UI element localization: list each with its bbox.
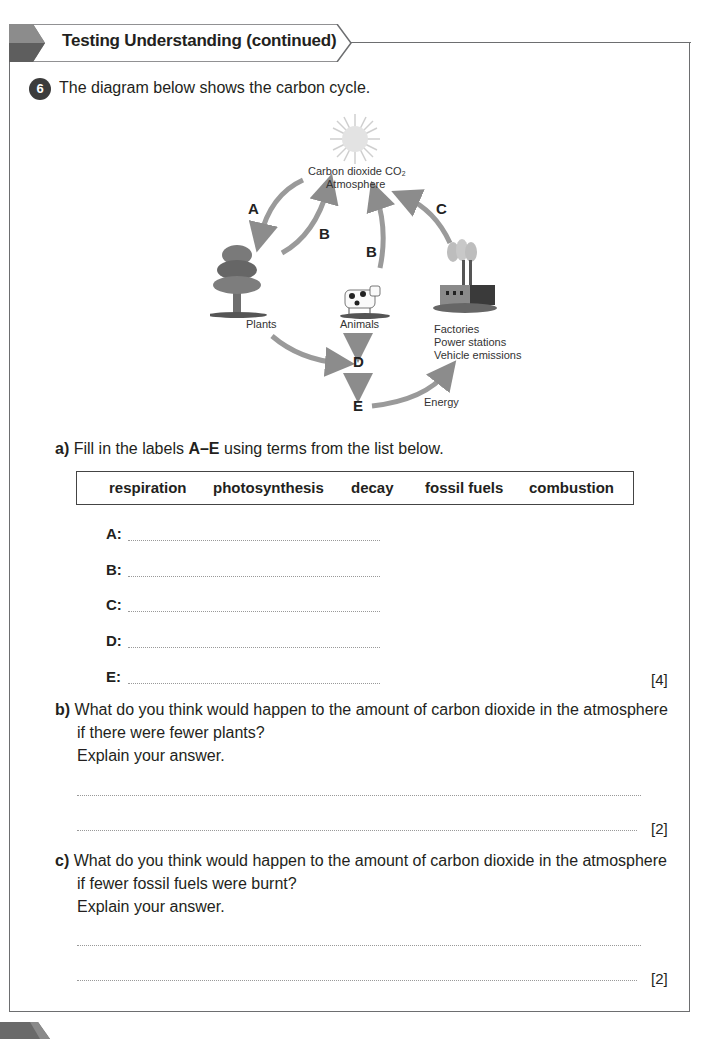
label-a: A: [248, 200, 259, 217]
term-combustion: combustion: [529, 479, 614, 496]
part-a-text-after: using terms from the list below.: [220, 440, 444, 457]
answer-label-e: E:: [106, 668, 121, 685]
part-b-answer-line-1[interactable]: [77, 795, 641, 796]
answer-label-b: B:: [106, 561, 122, 578]
part-a-text-before: Fill in the labels: [74, 440, 189, 457]
answer-label-a: A:: [106, 525, 122, 542]
part-a-text-bold: A–E: [188, 440, 219, 457]
part-c-question-text: What do you think would happen to the am…: [74, 852, 667, 869]
term-fossil-fuels: fossil fuels: [425, 479, 503, 496]
term-decay: decay: [351, 479, 394, 496]
part-a-marks: [4]: [651, 671, 668, 688]
frame-top-border: [345, 42, 691, 43]
label-c: C: [436, 200, 447, 217]
answer-line-b[interactable]: [128, 576, 380, 577]
part-c-line2: if fewer fossil fuels were burnt?: [77, 875, 297, 893]
cow-icon: [340, 286, 390, 319]
animals-label: Animals: [340, 318, 379, 330]
term-list-box: respiration photosynthesis decay fossil …: [76, 471, 634, 505]
answer-line-c[interactable]: [128, 611, 380, 612]
part-a-prompt: a) Fill in the labels A–E using terms fr…: [55, 440, 444, 458]
term-photosynthesis: photosynthesis: [213, 479, 324, 496]
part-b-label: b): [55, 701, 70, 718]
page-corner-tab: [0, 1022, 50, 1039]
factories-label-line1: Factories: [434, 323, 479, 335]
part-c-answer-line-2[interactable]: [77, 980, 637, 981]
part-b-question-text: What do you think would happen to the am…: [75, 701, 668, 718]
plants-label: Plants: [246, 318, 277, 330]
label-b-animals: B: [366, 243, 377, 260]
answer-line-d[interactable]: [128, 647, 380, 648]
part-c-marks: [2]: [651, 970, 668, 987]
label-b-plants: B: [319, 225, 330, 242]
part-c-answer-line-1[interactable]: [77, 945, 641, 946]
part-b-line1: b) What do you think would happen to the…: [55, 701, 668, 719]
part-b-line3: Explain your answer.: [77, 747, 225, 765]
part-b-answer-line-2[interactable]: [77, 830, 637, 831]
factory-icon: [433, 239, 497, 313]
part-b-marks: [2]: [651, 820, 668, 837]
part-a-label: a): [55, 440, 69, 457]
section-title: Testing Understanding (continued): [62, 31, 337, 51]
question-number-badge: 6: [29, 78, 51, 100]
question-intro: The diagram below shows the carbon cycle…: [59, 79, 370, 97]
energy-label: Energy: [424, 396, 459, 408]
part-b-line2: if there were fewer plants?: [77, 724, 265, 742]
sun-icon: [330, 114, 380, 164]
atmosphere-label-line2: Atmosphere: [326, 178, 385, 190]
answer-label-d: D:: [106, 632, 122, 649]
part-c-line3: Explain your answer.: [77, 898, 225, 916]
label-e: E: [353, 397, 363, 414]
answer-label-c: C:: [106, 596, 122, 613]
answer-line-e[interactable]: [128, 683, 380, 684]
term-respiration: respiration: [109, 479, 187, 496]
label-d: D: [353, 353, 364, 370]
factories-label-line3: Vehicle emissions: [434, 349, 521, 361]
answer-line-a[interactable]: [128, 540, 380, 541]
part-c-line1: c) What do you think would happen to the…: [55, 852, 667, 870]
factories-label-line2: Power stations: [434, 336, 506, 348]
carbon-cycle-diagram: Carbon dioxide CO₂ Atmosphere A B B C D …: [210, 110, 540, 420]
part-c-label: c): [55, 852, 69, 869]
atmosphere-label-line1: Carbon dioxide CO₂: [308, 165, 406, 177]
tree-icon: [210, 245, 267, 318]
